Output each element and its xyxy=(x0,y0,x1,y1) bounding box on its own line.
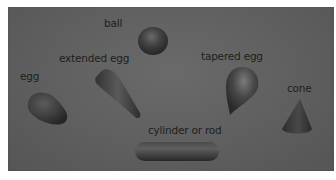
extended-egg-shape xyxy=(90,65,150,125)
label-cone: cone xyxy=(287,82,312,94)
tapered-egg-shape xyxy=(220,65,264,117)
label-tapered-egg: tapered egg xyxy=(201,50,263,62)
ball-shape xyxy=(136,23,170,57)
clay-shapes-photo: ball extended egg egg tapered egg cone c… xyxy=(8,7,334,171)
egg-shape xyxy=(24,89,74,131)
label-cylinder: cylinder or rod xyxy=(148,124,222,136)
label-ball: ball xyxy=(104,17,122,29)
label-extended-egg: extended egg xyxy=(59,52,129,64)
label-egg: egg xyxy=(20,70,39,82)
cylinder-shape xyxy=(132,139,222,165)
cone-shape xyxy=(276,97,316,137)
